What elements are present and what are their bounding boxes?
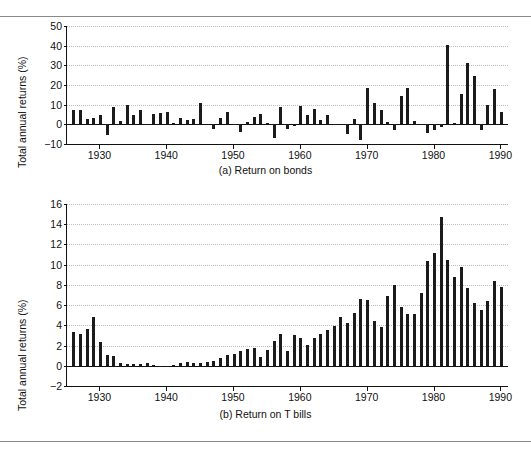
bar xyxy=(152,365,155,366)
chart-return-on-bonds: Total annual returns (%) −1001020304050 … xyxy=(0,18,531,186)
bar xyxy=(179,118,182,124)
bar xyxy=(326,115,329,124)
bar xyxy=(233,354,236,366)
bar xyxy=(79,334,82,365)
bar xyxy=(172,123,175,125)
bar xyxy=(493,89,496,125)
bar xyxy=(313,338,316,365)
bar xyxy=(146,363,149,366)
bar xyxy=(473,76,476,124)
bar xyxy=(446,45,449,124)
bar xyxy=(79,110,82,125)
bar xyxy=(246,349,249,366)
x-tick-label: 1940 xyxy=(155,150,178,161)
bar xyxy=(259,357,262,366)
bar xyxy=(253,348,256,366)
chart-return-on-t-bills: Total annual returns (%) −20246810121416… xyxy=(0,196,531,436)
bar xyxy=(219,118,222,125)
bar xyxy=(286,351,289,366)
y-tick-label: 8 xyxy=(56,280,62,291)
bar xyxy=(440,124,443,126)
bar xyxy=(112,107,115,124)
plot-area-bonds: −1001020304050 1930194019501960197019801… xyxy=(66,26,508,144)
x-axis-line xyxy=(67,144,508,145)
y-tick-label: 30 xyxy=(50,60,62,71)
bar xyxy=(186,362,189,366)
y-tick-mark xyxy=(64,46,67,47)
bar xyxy=(306,115,309,124)
x-tick-label: 1980 xyxy=(422,150,445,161)
bar xyxy=(199,363,202,366)
y-tick-label: 10 xyxy=(50,259,62,270)
y-tick-label: 12 xyxy=(50,239,62,250)
bar xyxy=(359,299,362,366)
bar xyxy=(219,358,222,366)
bar xyxy=(400,307,403,366)
x-tick-label: 1960 xyxy=(288,392,311,403)
gridline xyxy=(67,105,508,106)
bar xyxy=(420,293,423,366)
bar xyxy=(353,119,356,124)
bar xyxy=(273,124,276,137)
bar xyxy=(139,110,142,125)
bar xyxy=(186,120,189,124)
bar xyxy=(366,300,369,366)
caption-bonds: (a) Return on bonds xyxy=(0,164,531,176)
bar xyxy=(99,115,102,124)
gridline xyxy=(67,204,508,205)
bar xyxy=(286,124,289,128)
x-tick-label: 1970 xyxy=(355,392,378,403)
caption-tbills: (b) Return on T bills xyxy=(0,408,531,420)
bar xyxy=(486,105,489,124)
bar xyxy=(466,288,469,366)
bar xyxy=(420,124,423,125)
bar xyxy=(199,103,202,124)
bar xyxy=(233,124,236,125)
bar xyxy=(172,365,175,366)
bar xyxy=(266,350,269,366)
y-tick-mark xyxy=(64,204,67,205)
y-tick-label: 0 xyxy=(56,119,62,130)
y-tick-label: −2 xyxy=(50,381,62,392)
y-tick-mark xyxy=(64,325,67,326)
bar xyxy=(253,117,256,124)
bar xyxy=(333,124,336,125)
y-tick-mark xyxy=(64,85,67,86)
bar xyxy=(440,217,443,366)
bar xyxy=(373,103,376,125)
bar xyxy=(413,121,416,124)
y-tick-mark xyxy=(64,65,67,66)
bar xyxy=(206,362,209,366)
bar xyxy=(386,122,389,124)
bar xyxy=(359,124,362,140)
x-axis-line xyxy=(67,386,508,387)
bar xyxy=(166,112,169,124)
y-tick-mark xyxy=(64,244,67,245)
bar xyxy=(239,351,242,366)
bar xyxy=(206,124,209,125)
gridline xyxy=(67,46,508,47)
bar xyxy=(273,341,276,366)
bar xyxy=(119,121,122,125)
bar xyxy=(126,105,129,125)
x-tick-label: 1960 xyxy=(288,150,311,161)
y-tick-mark xyxy=(64,224,67,225)
bar xyxy=(106,124,109,134)
plot-area-tbills: −20246810121416 193019401950196019701980… xyxy=(66,204,508,386)
y-tick-label: 50 xyxy=(50,21,62,32)
bar xyxy=(366,88,369,124)
bar xyxy=(500,287,503,366)
y-tick-label: 20 xyxy=(50,80,62,91)
bar xyxy=(226,355,229,366)
bar xyxy=(132,364,135,366)
bar xyxy=(126,364,129,366)
y-tick-label: 0 xyxy=(56,361,62,372)
bar xyxy=(386,296,389,366)
bar xyxy=(493,281,496,366)
bar xyxy=(246,122,249,124)
bar xyxy=(500,112,503,124)
bar xyxy=(339,124,342,125)
bar xyxy=(480,124,483,129)
x-tick-label: 1970 xyxy=(355,150,378,161)
bar xyxy=(339,317,342,366)
